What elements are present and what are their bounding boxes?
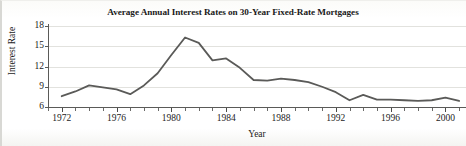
x-axis-tick-label: 2000 [428, 113, 462, 123]
x-axis-tick-major [391, 108, 392, 112]
x-axis-tick-minor [377, 108, 378, 111]
x-axis-tick-minor [48, 108, 49, 111]
x-axis-tick-minor [130, 108, 131, 111]
y-axis-tick-mark [45, 26, 49, 27]
x-axis-tick-minor [212, 108, 213, 111]
x-axis-tick-minor [254, 108, 255, 111]
chart-figure: Average Annual Interest Rates on 30-Year… [0, 0, 466, 146]
x-axis-tick-minor [75, 108, 76, 111]
x-axis-tick-minor [144, 108, 145, 111]
x-axis-tick-label: 1988 [264, 113, 298, 123]
x-axis-tick-major [445, 108, 446, 112]
x-axis-tick-minor [459, 108, 460, 111]
x-axis-tick-label: 1972 [45, 113, 79, 123]
x-axis-tick-minor [199, 108, 200, 111]
x-axis-tick-major [226, 108, 227, 112]
x-axis-tick-minor [158, 108, 159, 111]
x-axis-tick-minor [267, 108, 268, 111]
x-axis-tick-major [336, 108, 337, 112]
x-axis-tick-major [117, 108, 118, 112]
x-axis-tick-minor [89, 108, 90, 111]
x-axis-tick-minor [308, 108, 309, 111]
x-axis-tick-major [171, 108, 172, 112]
x-axis-tick-minor [404, 108, 405, 111]
x-axis-tick-label: 1984 [209, 113, 243, 123]
x-axis-tick-minor [240, 108, 241, 111]
y-axis-tick-mark [45, 46, 49, 47]
data-series-line [0, 0, 466, 146]
y-axis-tick-mark [45, 67, 49, 68]
x-axis-tick-minor [322, 108, 323, 111]
x-axis-title: Year [48, 129, 466, 139]
x-axis-tick-major [281, 108, 282, 112]
x-axis-tick-minor [363, 108, 364, 111]
x-axis-tick-minor [295, 108, 296, 111]
x-axis-tick-label: 1980 [154, 113, 188, 123]
y-axis-tick-mark [45, 87, 49, 88]
x-axis-tick-label: 1976 [100, 113, 134, 123]
interest-rate-line [62, 37, 459, 100]
x-axis-tick-minor [185, 108, 186, 111]
x-axis-tick-label: 1996 [374, 113, 408, 123]
x-axis-tick-minor [432, 108, 433, 111]
x-axis-tick-major [62, 108, 63, 112]
x-axis-tick-minor [418, 108, 419, 111]
x-axis-tick-minor [103, 108, 104, 111]
x-axis-tick-minor [350, 108, 351, 111]
x-axis-tick-label: 1992 [319, 113, 353, 123]
